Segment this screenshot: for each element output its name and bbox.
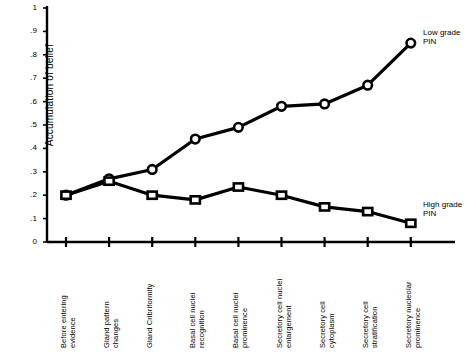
- data-point-marker-square: [105, 178, 114, 185]
- y-axis-tick-label: .3: [21, 168, 37, 176]
- data-point-marker-square: [320, 203, 329, 210]
- y-axis-tick-label: .5: [21, 121, 37, 129]
- x-axis-tick-label: Before entering evidence: [60, 278, 77, 348]
- data-point-marker-circle: [148, 165, 157, 174]
- data-point-marker-circle: [277, 102, 286, 111]
- x-axis-tick-label: Secretory nucleolar prominence: [405, 278, 422, 348]
- y-axis-tick-label: .7: [21, 74, 37, 82]
- x-axis-tick-label: Gland Cribriformity: [146, 278, 155, 348]
- data-point-marker-square: [406, 220, 415, 227]
- data-point-marker-square: [148, 192, 157, 199]
- data-point-marker-circle: [320, 100, 329, 109]
- y-axis-tick-label: .6: [21, 98, 37, 106]
- x-axis-tick-label: Basal cell nuclei recognition: [189, 278, 206, 348]
- data-point-marker-circle: [234, 123, 243, 132]
- data-point-marker-circle: [191, 135, 200, 144]
- y-axis-tick-label: .9: [21, 27, 37, 35]
- series-label-high-grade-pin: High grade PIN: [423, 200, 462, 218]
- y-axis-tick-label: 0: [21, 238, 37, 246]
- chart-page: Accumulation of belief 1.9.8.7.6.5.4.3.2…: [0, 0, 465, 354]
- series-line-1: [66, 43, 411, 195]
- y-axis-title: Accumulation of belief: [44, 44, 55, 146]
- data-point-marker-square: [363, 208, 372, 215]
- x-axis-tick-label: Secretory cell cytoplasm: [319, 278, 336, 348]
- series-label-low-grade-pin: Low grade PIN: [423, 28, 460, 46]
- x-axis-tick-label: Secretory cell nuclei enlargement: [276, 278, 293, 348]
- y-axis-tick-label: .1: [21, 215, 37, 223]
- data-point-marker-circle: [363, 81, 372, 90]
- data-point-marker-square: [277, 192, 286, 199]
- data-point-marker-square: [61, 192, 70, 199]
- y-axis-tick-label: 1: [21, 4, 37, 12]
- x-axis-tick-label: Basal cell nuclei prominence: [232, 278, 249, 348]
- y-axis-tick-label: .8: [21, 51, 37, 59]
- x-axis-tick-label: Gland pattern changes: [103, 278, 120, 348]
- data-point-marker-circle: [407, 39, 416, 48]
- x-axis-tick-label: Secretory cell stratification: [362, 278, 379, 348]
- data-point-marker-square: [234, 183, 243, 190]
- y-axis-tick-label: .4: [21, 144, 37, 152]
- data-point-marker-square: [191, 196, 200, 203]
- y-axis-tick-label: .2: [21, 191, 37, 199]
